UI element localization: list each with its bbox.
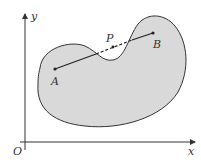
point-p [112, 46, 115, 49]
point-a [53, 67, 56, 70]
point-b [151, 31, 154, 34]
label-y: y [30, 10, 38, 23]
region-diagram: A B P y x O [0, 0, 201, 168]
label-p: P [105, 32, 114, 45]
label-b: B [152, 38, 161, 51]
label-origin: O [13, 145, 22, 158]
label-x: x [188, 145, 195, 158]
label-a: A [50, 75, 59, 88]
